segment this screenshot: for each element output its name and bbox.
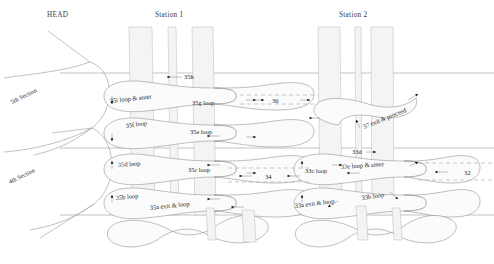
station-1-column-c <box>192 27 216 215</box>
station-2-column-b <box>355 27 362 215</box>
label-33d: 33d <box>352 148 362 155</box>
section-label-5th: 5th Section <box>9 86 37 105</box>
station-1-column-b <box>168 27 179 215</box>
label-connector-32: 32 <box>464 169 471 176</box>
label-35h: 35h <box>184 73 194 80</box>
ribbon-bottom-right <box>295 215 456 246</box>
bottom-column-2 <box>242 210 256 242</box>
head-section-shapes <box>4 31 112 238</box>
bottom-column-3 <box>356 206 368 240</box>
label-connector-36: 36 <box>272 97 279 104</box>
ribbon-35d-35c-left <box>104 154 236 185</box>
diagram-canvas: HEAD Station 1 Station 2 5th Section 4th… <box>0 0 494 264</box>
bottom-column-4 <box>392 208 402 240</box>
label-35c: 35c loop <box>188 166 210 173</box>
header-station-1: Station 1 <box>155 11 184 19</box>
label-33c: 33c loop <box>305 167 327 174</box>
label-connector-34: 34 <box>265 173 272 180</box>
ribbon-35f-35e-left <box>104 118 236 149</box>
section-label-4th: 4th Section <box>7 166 35 185</box>
label-35e: 35e loop <box>190 128 212 135</box>
header-head: HEAD <box>47 11 68 19</box>
header-station-2: Station 2 <box>339 11 368 19</box>
label-35g: 35g loop <box>192 99 215 106</box>
bottom-column-1 <box>206 208 216 240</box>
